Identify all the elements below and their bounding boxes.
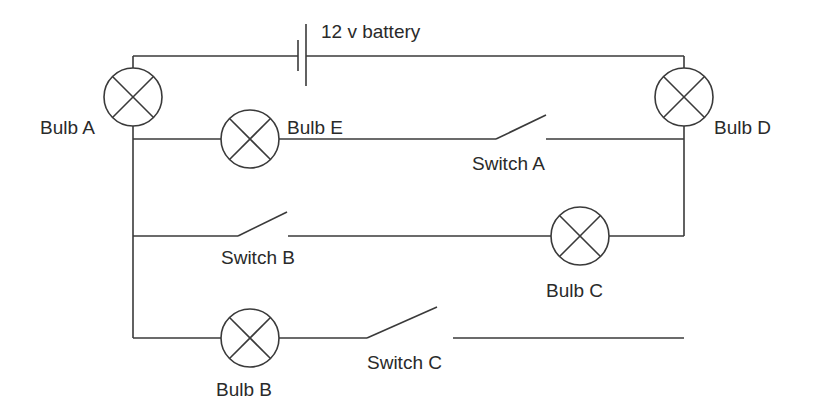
- bulb-a-label: Bulb A: [40, 117, 95, 138]
- switch-a-label: Switch A: [472, 153, 545, 174]
- top-wire: [133, 56, 684, 68]
- switch-b-label: Switch B: [221, 247, 295, 268]
- battery-label: 12 v battery: [321, 21, 421, 42]
- bulb-b-label: Bulb B: [216, 379, 272, 400]
- bulb-c-label: Bulb C: [546, 280, 603, 301]
- switch-c-label: Switch C: [367, 352, 442, 373]
- bulb-e-label: Bulb E: [287, 117, 343, 138]
- switch-a-lever-icon: [496, 115, 546, 139]
- circuit-diagram: 12 v battery Bulb A Bulb D Bulb E Switch…: [0, 0, 825, 418]
- battery-icon: [298, 24, 306, 86]
- bulb-b-icon: [221, 309, 279, 367]
- bulb-e-icon: [221, 110, 279, 168]
- bulb-a-icon: [104, 68, 162, 126]
- bulb-d-label: Bulb D: [714, 117, 771, 138]
- bulb-c-icon: [551, 207, 609, 265]
- switch-b-lever-icon: [238, 212, 287, 236]
- switch-c-lever-icon: [367, 307, 437, 338]
- bulb-d-icon: [655, 68, 713, 126]
